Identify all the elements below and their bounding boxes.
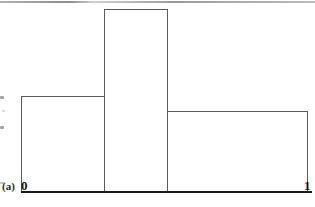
bar-2-right-edge — [167, 9, 168, 192]
x-axis-start-label: 0 — [21, 179, 28, 192]
figure-panel: 0 1 (a) — [0, 0, 315, 207]
bar-2-top-edge — [104, 9, 167, 10]
plot-area: 0 1 (a) — [0, 0, 315, 207]
x-axis-end-label: 1 — [304, 179, 311, 192]
bar-3-top-edge — [167, 111, 307, 112]
x-axis-baseline — [21, 191, 312, 193]
panel-caption: (a) — [2, 180, 15, 192]
bar-2-left-edge — [104, 9, 105, 192]
bar-1-top-edge — [21, 96, 104, 97]
